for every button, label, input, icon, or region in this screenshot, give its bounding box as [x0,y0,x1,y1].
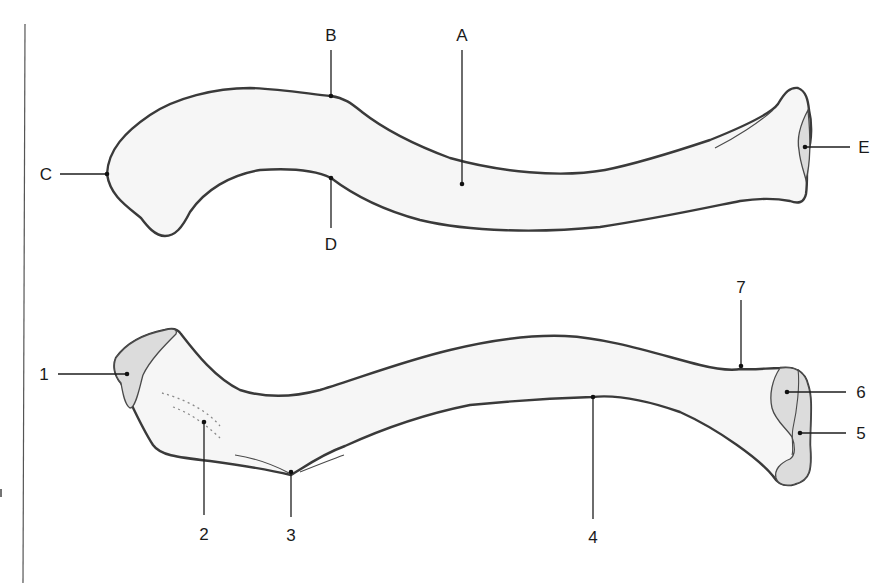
point-6 [785,390,790,395]
label-7: 7 [736,278,745,297]
label-C: C [40,165,52,184]
point-A [460,182,465,187]
clavicle-diagram: A B C D E 1 2 [0,0,889,583]
point-3 [289,470,294,475]
label-3: 3 [286,526,295,545]
point-E [803,145,808,150]
point-B [329,94,334,99]
clavicle-top-view: A B C D E [40,26,870,254]
point-2 [202,420,207,425]
point-C [105,172,110,177]
point-D [329,176,334,181]
label-D: D [325,235,337,254]
point-5 [798,431,803,436]
clavicle-bottom-view: 1 2 3 4 5 6 7 [39,278,865,547]
top-bone-outline [107,88,811,236]
label-1: 1 [39,365,48,384]
label-B: B [325,26,336,45]
bottom-bone-outline [114,329,810,485]
label-2: 2 [199,525,208,544]
left-divider-line [23,24,25,583]
label-4: 4 [588,528,597,547]
label-5: 5 [856,424,865,443]
point-1 [125,372,130,377]
label-A: A [456,26,468,45]
label-6: 6 [856,383,865,402]
point-7 [739,364,744,369]
label-E: E [858,138,869,157]
point-4 [591,395,596,400]
